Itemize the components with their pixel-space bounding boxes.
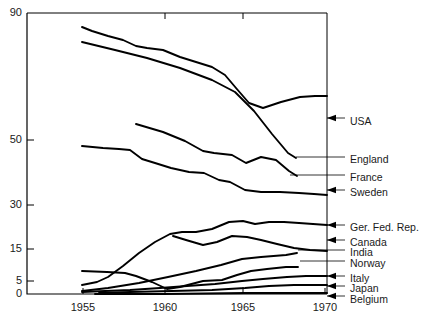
- series-label-france: France: [350, 172, 383, 183]
- series-line: [95, 293, 327, 294]
- series-line-layer: [82, 27, 327, 294]
- series-leader-arrowhead: [327, 187, 336, 193]
- x-axis-tick-label: 1970: [305, 302, 345, 313]
- series-line: [82, 221, 327, 285]
- series-leader-arrowhead: [327, 115, 336, 121]
- y-axis-tick-label: 90: [10, 7, 22, 18]
- series-leader-arrowhead: [327, 237, 336, 243]
- y-axis-tick-label: 5: [16, 275, 22, 286]
- series-leader-arrowhead: [327, 283, 336, 289]
- series-leader-arrowhead: [327, 273, 336, 279]
- series-label-belgium: Belgium: [350, 294, 388, 305]
- x-axis-tick-label: 1955: [63, 302, 103, 313]
- y-axis-tick-label: 0: [16, 288, 22, 299]
- series-line: [173, 236, 327, 251]
- series-leader-arrowhead: [327, 222, 336, 228]
- series-line: [82, 27, 327, 108]
- y-axis-tick-label: 15: [10, 243, 22, 254]
- series-label-usa: USA: [350, 116, 372, 127]
- series-line: [136, 124, 297, 176]
- series-label-norway: Norway: [350, 258, 386, 269]
- series-leader-arrowhead: [327, 293, 336, 299]
- series-label-england: England: [350, 154, 389, 165]
- y-axis-tick-label: 50: [10, 134, 22, 145]
- series-label-sweden: Sweden: [350, 187, 388, 198]
- line-chart: 9050301550 1955196019651970 USAEnglandFr…: [0, 0, 430, 320]
- series-label-ger-fed-rep: Ger. Fed. Rep.: [350, 222, 419, 233]
- x-axis-tick-label: 1965: [223, 302, 263, 313]
- x-axis-tick-label: 1960: [145, 302, 185, 313]
- y-axis-tick-label: 30: [10, 199, 22, 210]
- leader-line-layer: [290, 115, 345, 299]
